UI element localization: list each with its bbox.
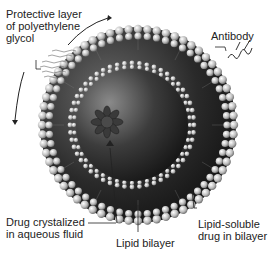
- lipid-bilayer-label: Lipid bilayer: [116, 237, 175, 249]
- aqueous-core: [76, 69, 188, 181]
- peg-label: Protective layer of polyethylene glycol: [6, 8, 82, 44]
- antibody-icon: [228, 40, 252, 59]
- peg-label-line3: glycol: [6, 32, 82, 44]
- drug-aqueous-label-line1: Drug crystalized: [6, 216, 85, 228]
- antibody-label: Antibody: [211, 30, 254, 42]
- peg-label-line1: Protective layer: [6, 8, 82, 20]
- lipid-drug-label-line1: Lipid-soluble: [198, 218, 267, 230]
- liposome-diagram: Protective layer of polyethylene glycol …: [0, 0, 273, 256]
- lipid-drug-label-line2: drug in bilayer: [198, 230, 267, 242]
- lipid-drug-label: Lipid-soluble drug in bilayer: [198, 218, 267, 242]
- antibody-leader-line: [215, 47, 226, 51]
- drug-aqueous-label-line2: in aqueous fluid: [6, 228, 85, 240]
- drug-crystal-icon: [91, 106, 123, 138]
- peg-label-line2: of polyethylene: [6, 20, 82, 32]
- arrowhead-icon: [12, 120, 18, 125]
- peg-leader-line: [36, 60, 41, 69]
- arrowhead-icon: [107, 15, 112, 21]
- drug-aqueous-label: Drug crystalized in aqueous fluid: [6, 216, 85, 240]
